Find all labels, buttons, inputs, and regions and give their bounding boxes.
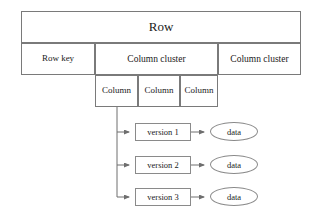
column-cell-1: Column: [95, 75, 138, 107]
data-node-1: data: [210, 122, 258, 141]
version-box-3: version 3: [135, 188, 191, 206]
column-cluster-cell-1: Column cluster: [95, 43, 218, 75]
version-box-1: version 1: [135, 123, 191, 141]
data-node-2: data: [210, 155, 258, 174]
column-cell-2: Column: [138, 75, 180, 107]
version-box-2: version 2: [135, 156, 191, 174]
data-node-3: data: [210, 187, 258, 206]
column-cell-3: Column: [180, 75, 218, 107]
diagram-canvas: Row Row key Column cluster Column cluste…: [0, 0, 315, 216]
column-cluster-cell-2: Column cluster: [218, 43, 301, 75]
row-header-cell: Row: [21, 11, 301, 43]
row-key-cell: Row key: [21, 43, 95, 75]
